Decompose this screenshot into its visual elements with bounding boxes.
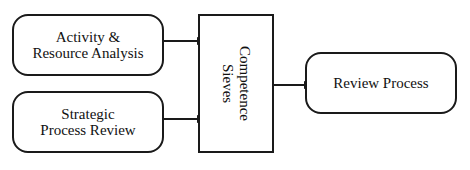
node-label: Process Review: [40, 122, 135, 138]
node-label: Strategic: [40, 106, 135, 122]
node-activity-resource-analysis: Activity & Resource Analysis: [12, 14, 164, 76]
node-review-process: Review Process: [305, 52, 457, 114]
node-label: Review Process: [333, 75, 428, 91]
node-competence-sieves: Competence Sieves: [198, 14, 274, 153]
node-strategic-process-review: Strategic Process Review: [12, 91, 164, 153]
node-label: Activity &: [32, 29, 143, 45]
node-label: Resource Analysis: [32, 45, 143, 61]
node-label: Competence: [236, 46, 253, 121]
node-label: Sieves: [219, 46, 236, 121]
